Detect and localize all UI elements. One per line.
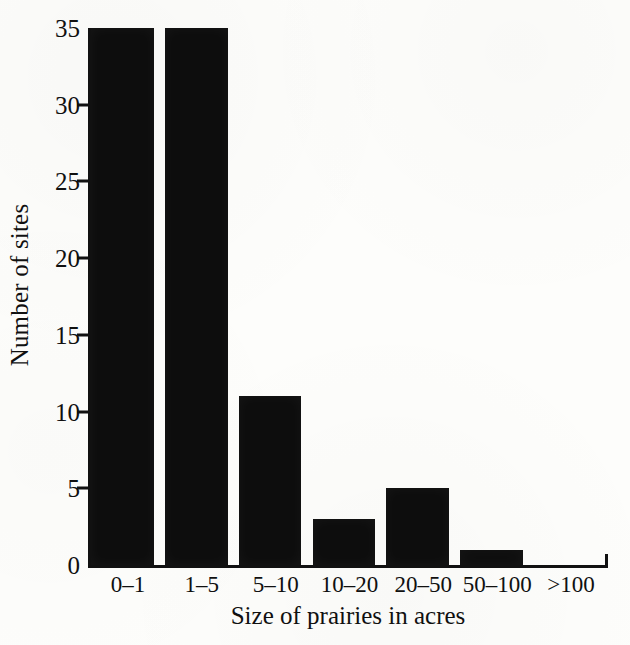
x-axis-tick-label: 10–20 (313, 572, 387, 597)
bar-slot (460, 28, 534, 565)
x-axis-tick-label: 20–50 (386, 572, 460, 597)
x-axis-tick-label: 5–10 (239, 572, 313, 597)
y-axis-tick-label: 25 (34, 169, 80, 194)
x-axis-tick-label: 0–1 (91, 572, 165, 597)
bar (460, 550, 523, 565)
y-axis-tick-label: 5 (34, 476, 80, 501)
x-axis-line (88, 565, 608, 568)
y-axis-tick-mark (77, 103, 88, 106)
y-axis-tick-label: 0 (34, 553, 80, 578)
bar-slot (165, 28, 239, 565)
bar-slot (534, 28, 608, 565)
y-axis-tick-labels: 05101520253035 (34, 0, 80, 645)
y-axis-tick-label: 20 (34, 246, 80, 271)
bar-slot (239, 28, 313, 565)
y-axis-tick-label: 15 (34, 322, 80, 347)
y-axis-tick-mark (77, 333, 88, 336)
x-axis-tick-labels: 0–11–55–1010–2020–5050–100>100 (91, 572, 608, 597)
plot-area (88, 28, 608, 565)
x-axis-tick-label: >100 (534, 572, 608, 597)
y-axis-tick-label: 35 (34, 16, 80, 41)
bar (165, 28, 228, 565)
bar-slot (386, 28, 460, 565)
y-axis-tick-mark (77, 410, 88, 413)
y-axis-tick-label: 10 (34, 399, 80, 424)
bar-series (91, 28, 608, 565)
chart-page: Number of sites 05101520253035 0–11–55–1… (0, 0, 630, 645)
y-axis-tick-label: 30 (34, 92, 80, 117)
x-axis-title: Size of prairies in acres (88, 602, 608, 630)
bar-slot (91, 28, 165, 565)
bar (386, 488, 449, 565)
y-axis-tick-mark (77, 180, 88, 183)
y-axis-tick-mark (77, 487, 88, 490)
bar (91, 28, 154, 565)
bar-slot (313, 28, 387, 565)
bar (239, 396, 302, 565)
y-axis-tick-mark (77, 257, 88, 260)
y-axis-title: Number of sites (6, 204, 34, 367)
bar (313, 519, 376, 565)
x-axis-tick-label: 50–100 (460, 572, 534, 597)
x-axis-tick-label: 1–5 (165, 572, 239, 597)
